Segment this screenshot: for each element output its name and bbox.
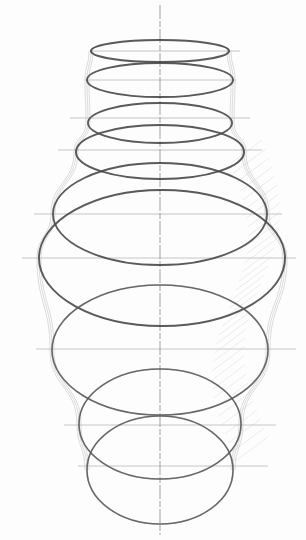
hatch-stroke bbox=[216, 320, 248, 344]
right-contour bbox=[231, 51, 287, 470]
shading-hatch bbox=[212, 140, 280, 461]
sketch-canvas bbox=[0, 0, 306, 540]
right-contour bbox=[227, 51, 283, 470]
left-contour bbox=[37, 51, 89, 470]
hatch-stroke bbox=[242, 248, 274, 272]
hatch-stroke bbox=[248, 203, 280, 227]
hatch-stroke bbox=[237, 158, 269, 182]
hatch-stroke bbox=[233, 275, 265, 299]
hatch-stroke bbox=[236, 266, 268, 290]
hatch-stroke bbox=[212, 356, 244, 380]
hatch-stroke bbox=[229, 419, 261, 443]
hatch-stroke bbox=[219, 311, 251, 335]
horizontal-guide-lines bbox=[22, 51, 296, 466]
hatch-stroke bbox=[239, 257, 271, 281]
hatch-stroke bbox=[222, 401, 254, 425]
hatch-stroke bbox=[236, 437, 268, 461]
left-contour bbox=[41, 51, 93, 470]
vase-sketch bbox=[0, 0, 306, 540]
vase-contour-lines bbox=[37, 51, 287, 470]
hatch-stroke bbox=[219, 392, 251, 416]
hatch-stroke bbox=[229, 284, 261, 308]
